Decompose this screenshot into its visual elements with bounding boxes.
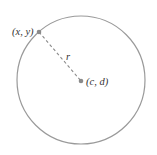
circle-diagram: (x, y) (c, d) r [0, 0, 157, 155]
point-label: (x, y) [12, 26, 34, 38]
diagram-canvas: (x, y) (c, d) r [0, 0, 157, 155]
radius-label: r [66, 51, 71, 62]
radius-dashed-line [39, 32, 81, 81]
point-on-circle-dot [37, 30, 42, 35]
center-label: (c, d) [86, 76, 109, 88]
center-dot [79, 79, 84, 84]
